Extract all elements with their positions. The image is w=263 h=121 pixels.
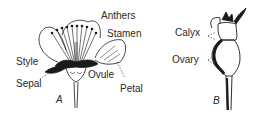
figure-a-label: A	[56, 95, 63, 105]
label-style: Style	[16, 57, 38, 67]
label-ovary: Ovary	[172, 55, 199, 65]
label-calyx: Calyx	[175, 28, 200, 38]
label-anthers: Anthers	[101, 11, 135, 21]
label-stamen: Stamen	[107, 29, 141, 39]
label-sepal: Sepal	[16, 79, 42, 89]
figure-b-label: B	[213, 96, 220, 106]
label-petal: Petal	[120, 84, 143, 94]
label-ovule: Ovule	[88, 70, 114, 80]
